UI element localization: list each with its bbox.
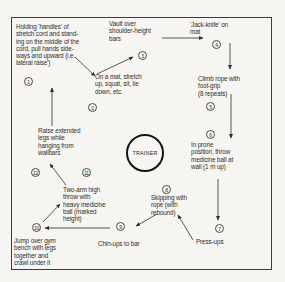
circuit-training-diagram: Holding 'handles' of stretch cord and st…: [0, 0, 285, 282]
station-7-number: 7: [215, 224, 224, 233]
station-9-number: 9: [116, 222, 125, 231]
station-6-number: 6: [206, 130, 215, 139]
arrow-7-to-8: [178, 215, 193, 240]
station-9-label: Chin-ups to bar: [98, 240, 140, 247]
station-10-label: Jump over gym bench with legs together a…: [14, 237, 64, 266]
station-3-number: 3: [138, 51, 147, 60]
station-8-label: Skipping with rope (with rebound): [151, 194, 193, 216]
station-7-label: Press-ups: [196, 238, 223, 245]
station-8-number: 8: [162, 185, 171, 194]
trainer-label: TRAINER: [132, 150, 157, 156]
station-1-label: Holding 'handles' of stretch cord and st…: [16, 23, 90, 67]
station-11-number: 11: [82, 168, 91, 177]
station-2-number: 2: [88, 103, 97, 112]
trainer-circle: TRAINER: [126, 134, 164, 172]
arrow-11-to-12: [50, 164, 66, 185]
station-2-label: On a mat, stretch up, squat, sit, lie do…: [95, 73, 155, 95]
station-12-number: 12: [31, 168, 40, 177]
arrow-10-to-11: [43, 204, 60, 222]
station-10-number: 10: [32, 223, 41, 232]
station-4-number: 4: [212, 40, 221, 49]
station-3-label: Vault over shoulder-height bars: [109, 20, 157, 42]
station-12-label: Raise extended legs while hanging from w…: [38, 127, 90, 156]
station-5-number: 5: [206, 102, 215, 111]
arrow-2-to-3: [97, 57, 133, 74]
station-6-label: In prone position, throw medicine ball a…: [191, 141, 247, 170]
station-4-label: 'Jack-knife' on mat: [190, 21, 236, 36]
station-11-label: Two-arm high throw with heavy medicine b…: [63, 186, 111, 222]
station-5-label: Climb rope with foot-grip (8 repeats): [198, 75, 252, 97]
station-1-number: 1: [24, 77, 33, 86]
